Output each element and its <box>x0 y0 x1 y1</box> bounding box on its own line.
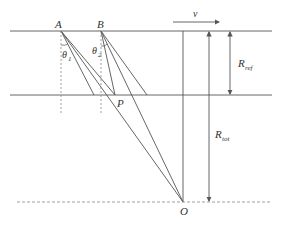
geometry-diagram: A B P O v θ 1 θ 2 R ref R tot <box>0 0 290 228</box>
label-R-tot-sub: tot <box>222 135 230 143</box>
label-theta1-sub: 1 <box>68 55 72 63</box>
ray-A-1 <box>61 31 94 95</box>
ray-B-to-O <box>101 31 183 202</box>
label-A: A <box>54 18 62 30</box>
angle-arc-theta1 <box>61 44 68 45</box>
label-theta2-sub: 2 <box>98 51 102 59</box>
label-theta1: θ <box>62 49 67 60</box>
label-B: B <box>97 18 104 30</box>
label-O: O <box>180 205 188 217</box>
label-R-ref-sub: ref <box>245 64 254 72</box>
label-P: P <box>116 97 124 109</box>
label-R-tot: R <box>214 128 222 140</box>
ray-A-to-P <box>61 31 115 95</box>
ray-A-to-O <box>61 31 183 202</box>
label-R-ref: R <box>237 57 245 69</box>
label-v: v <box>193 8 198 19</box>
label-theta2: θ <box>92 45 97 56</box>
